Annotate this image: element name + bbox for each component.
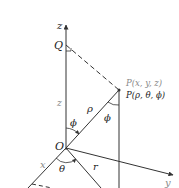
p-spherical-label: P(ρ, θ, ϕ) — [125, 90, 165, 100]
p-cartesian-label: P(x, y, z) — [125, 78, 162, 88]
theta-label: θ — [59, 163, 65, 174]
x-axis-label: x — [40, 159, 46, 170]
z-axis-label: z — [56, 20, 63, 31]
right-angle-mark — [66, 48, 71, 51]
z-height-label: z — [56, 98, 62, 108]
rho-label: ρ — [86, 103, 93, 114]
phi-arc-origin — [66, 128, 79, 134]
r-label: r — [93, 161, 99, 172]
spherical-coordinates-diagram: z Q z ρ ϕ ϕ O x θ r y P(x, y, z) P(ρ, θ,… — [0, 0, 179, 188]
q-to-p-dashed — [66, 45, 119, 90]
y-axis-label: y — [164, 177, 171, 188]
phi-origin-label: ϕ — [70, 117, 77, 128]
origin-label: O — [55, 140, 64, 153]
point-p — [118, 89, 121, 92]
x-projection-dashed — [32, 184, 52, 188]
q-label: Q — [54, 39, 63, 52]
phi-arc-p — [108, 102, 119, 105]
phi-p-label: ϕ — [104, 112, 111, 123]
